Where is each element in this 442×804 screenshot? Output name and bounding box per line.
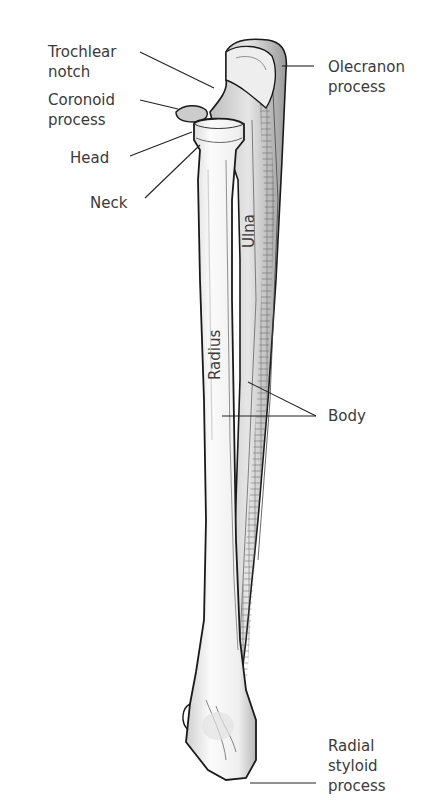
label-trochlear-notch: Trochlear notch	[48, 42, 116, 82]
label-ulna: Ulna	[240, 214, 258, 248]
label-olecranon-process: Olecranon process	[328, 57, 405, 97]
label-radial-styloid-process: Radial styloid process	[328, 736, 386, 796]
label-head: Head	[70, 148, 109, 168]
label-neck: Neck	[90, 193, 127, 213]
label-body: Body	[328, 406, 366, 426]
label-coronoid-process: Coronoid process	[48, 90, 115, 130]
label-radius: Radius	[206, 330, 224, 380]
